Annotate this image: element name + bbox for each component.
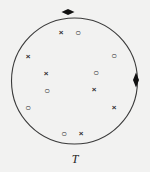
figure-canvas: ×○×○×○○×○×○× T [0, 0, 150, 172]
point-circle-icon: ○ [61, 128, 67, 139]
point-cross-icon: × [59, 28, 64, 37]
point-cross-icon: × [92, 85, 97, 94]
point-cross-icon: × [26, 52, 31, 61]
point-circle-icon: ○ [75, 27, 81, 38]
point-circle-icon: ○ [25, 102, 31, 113]
point-circle-icon: ○ [44, 85, 50, 96]
point-cross-icon: × [79, 129, 84, 138]
point-circle-icon: ○ [111, 50, 117, 61]
point-cross-icon: × [44, 69, 49, 78]
point-circle-icon: ○ [93, 67, 99, 78]
point-cross-icon: × [112, 103, 117, 112]
point-set-diagram: ×○×○×○○×○×○× T [0, 0, 150, 172]
